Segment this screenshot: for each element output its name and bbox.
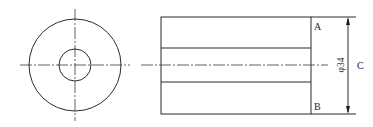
label-b: B	[314, 101, 321, 112]
diameter-dimension-text: φ34	[336, 57, 346, 72]
end-view	[20, 9, 130, 121]
label-a: A	[314, 21, 322, 32]
outline-rectangle	[161, 17, 311, 114]
side-view: A B C φ34	[141, 17, 364, 114]
label-c: C	[357, 60, 364, 71]
dimension-arrow-down-icon	[346, 106, 350, 114]
technical-drawing: A B C φ34	[0, 0, 373, 127]
dimension-arrow-up-icon	[346, 17, 350, 25]
